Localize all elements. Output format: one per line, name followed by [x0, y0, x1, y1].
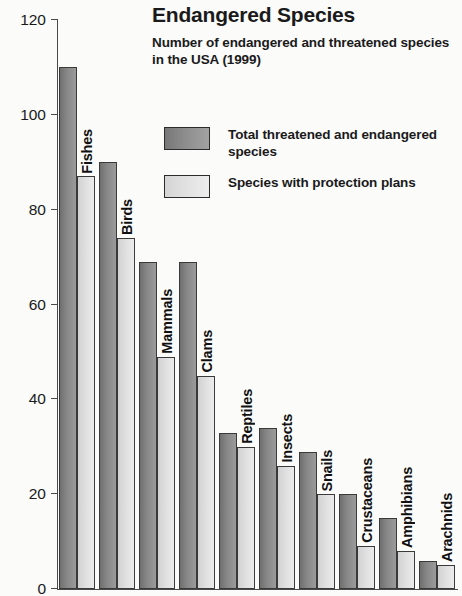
- bar-group: Snails: [298, 20, 338, 589]
- bar-group: Mammals: [138, 20, 178, 589]
- bar-protected: [317, 494, 335, 589]
- bar-total: [419, 561, 437, 589]
- bar-total: [299, 452, 317, 590]
- y-axis-tick-label: 20: [29, 485, 46, 503]
- bar-group: Clams: [178, 20, 218, 589]
- bar-total: [99, 162, 117, 589]
- y-axis-tick: 80: [51, 209, 58, 210]
- bar-protected: [197, 376, 215, 589]
- y-axis-tick: 100: [51, 114, 58, 115]
- y-axis-tick-label: 120: [20, 11, 46, 29]
- y-axis-tick: 120: [51, 19, 58, 20]
- bar-total: [379, 518, 397, 589]
- category-label: Fishes: [79, 129, 95, 174]
- bar-protected: [437, 565, 455, 589]
- bar-group: Insects: [258, 20, 298, 589]
- y-axis-tick: 60: [51, 304, 58, 305]
- bar-protected: [157, 357, 175, 589]
- bar-protected: [277, 466, 295, 589]
- bar-total: [219, 433, 237, 589]
- y-axis-tick-label: 80: [29, 201, 46, 219]
- bar-total: [339, 494, 357, 589]
- y-axis-tick-label: 100: [20, 106, 46, 124]
- y-axis-tick-label: 60: [29, 296, 46, 314]
- category-label: Insects: [279, 414, 295, 463]
- y-axis-tick-label: 40: [29, 390, 46, 408]
- category-label: Birds: [119, 199, 135, 235]
- bar-protected: [357, 546, 375, 589]
- bar-total: [259, 428, 277, 589]
- y-axis-tick: 0: [51, 588, 58, 589]
- plot-area: 120100806040200 FishesBirdsMammalsClamsR…: [57, 20, 458, 590]
- bar-total: [179, 262, 197, 589]
- category-label: Amphibians: [399, 467, 415, 548]
- category-label: Mammals: [159, 289, 175, 354]
- category-label: Clams: [199, 330, 215, 373]
- bar-total: [139, 262, 157, 589]
- bar-protected: [237, 447, 255, 589]
- bar-group-container: FishesBirdsMammalsClamsReptilesInsectsSn…: [58, 20, 458, 589]
- category-label: Arachnids: [439, 493, 455, 562]
- bar-group: Amphibians: [378, 20, 418, 589]
- bar-protected: [77, 176, 95, 589]
- y-axis-tick-label: 0: [37, 580, 46, 596]
- bar-protected: [117, 238, 135, 589]
- bar-group: Fishes: [58, 20, 98, 589]
- category-label: Crustaceans: [359, 458, 375, 543]
- category-label: Reptiles: [239, 389, 255, 444]
- bar-group: Crustaceans: [338, 20, 378, 589]
- bar-total: [59, 67, 77, 589]
- bar-group: Birds: [98, 20, 138, 589]
- endangered-species-chart: Endangered Species Number of endangered …: [0, 0, 462, 596]
- y-axis-tick: 20: [51, 493, 58, 494]
- bar-group: Arachnids: [418, 20, 458, 589]
- bar-group: Reptiles: [218, 20, 258, 589]
- y-axis-tick: 40: [51, 398, 58, 399]
- category-label: Snails: [319, 450, 335, 492]
- bar-protected: [397, 551, 415, 589]
